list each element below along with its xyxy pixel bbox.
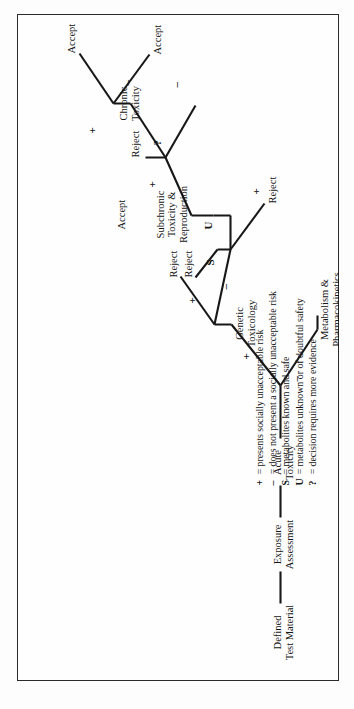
edge-symbol-genetic-plus: + [185, 297, 197, 303]
legend-row: S = metabolites known and safe [279, 291, 292, 486]
legend-symbol: ? [306, 476, 317, 485]
legend-row: U = metabolites unknown or of doubtful s… [293, 291, 306, 486]
legend-equals: = [279, 466, 290, 476]
edge-symbol-acute-plus: + [239, 353, 251, 359]
edge-symbol-chronic-query: ? [150, 140, 162, 146]
edge-symbol-subchronic-minus: + [145, 181, 157, 187]
edge-symbol-genetic-minus: – [218, 284, 230, 290]
legend: + = presents socially unacceptable risk … [253, 291, 319, 486]
figure-content-area: Defined Test Material Exposure Assessmen… [17, 14, 339, 681]
legend-equals: = [266, 466, 277, 476]
decision-tree-canvas: Defined Test Material Exposure Assessmen… [17, 14, 339, 681]
figure-page: Figure 11.1 [0, 0, 354, 709]
node-label-line: Genetic [233, 294, 245, 352]
outcome-accept-subchronic: Accept [151, 24, 162, 54]
legend-text: decision requires more evidence [306, 339, 317, 467]
node-label-line: Exposure [271, 515, 283, 573]
edge-symbol-metabolism-u: U [201, 221, 213, 229]
edge-symbol-chronic-minus: – [120, 80, 132, 86]
edge-symbol-subchronic-plus: + [249, 188, 261, 194]
node-label-line: Defined [271, 601, 283, 663]
legend-row: – = does not present a socially unaccept… [266, 291, 279, 486]
legend-symbol: S [279, 476, 290, 485]
legend-symbol: + [253, 476, 264, 485]
node-label-line: Toxicity & [165, 183, 176, 245]
node-label-line: Subchronic [154, 183, 165, 245]
legend-equals: = [253, 466, 264, 476]
legend-text: presents socially unacceptable risk [253, 329, 264, 466]
outcome-reject-chronic: Reject [129, 130, 140, 157]
legend-symbol: – [266, 476, 277, 485]
outcome-reject-acute: Reject [167, 250, 178, 277]
legend-row: + = presents socially unacceptable risk [253, 291, 266, 486]
node-label-line: Chronic [117, 78, 129, 128]
node-exposure-assessment: Exposure Assessment [271, 515, 294, 573]
node-metabolism-pharmacokinetics: Metabolism & Pharmacokinetics [318, 265, 339, 353]
node-label-line: Toxicity [129, 78, 141, 128]
legend-text: does not present a socially unacceptable… [266, 291, 277, 467]
node-defined-test-material: Defined Test Material [271, 601, 294, 663]
legend-equals: = [293, 466, 304, 476]
outcome-reject-genetic: Reject [182, 250, 193, 277]
edge-symbol-chronic-plus: + [85, 127, 97, 133]
edge-symbol-metabolism-s: S [203, 259, 215, 265]
node-chronic-toxicity: Chronic Toxicity [117, 78, 140, 128]
node-label-line: Metabolism & [318, 265, 330, 353]
outcome-accept-metabolism: Accept [115, 199, 126, 229]
outcome-accept-chronic: Accept [65, 23, 76, 53]
node-subchronic-toxicity-reproduction: Subchronic Toxicity & Reproduction [154, 183, 188, 245]
node-label-line: Reproduction [177, 183, 188, 245]
node-label-line: Test Material [283, 601, 295, 663]
node-label-line: Pharmacokinetics [330, 265, 339, 353]
legend-equals: = [306, 466, 317, 476]
legend-row: ? = decision requires more evidence [306, 291, 319, 486]
legend-text: metabolites unknown or of doubtful safet… [293, 298, 304, 466]
outcome-reject-subchronic: Reject [266, 176, 277, 203]
node-label-line: Assessment [283, 515, 295, 573]
legend-symbol: U [293, 476, 304, 485]
edge-symbol-subchronic-accept-minus: – [169, 82, 181, 88]
legend-text: metabolites known and safe [279, 356, 290, 466]
